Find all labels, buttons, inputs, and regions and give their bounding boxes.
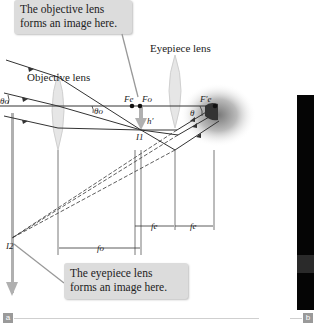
label-f-e-2: fe bbox=[190, 221, 197, 231]
label-fe-prime: F′e bbox=[199, 94, 211, 104]
panel-b-stripe bbox=[297, 255, 314, 273]
objective-lens-shape bbox=[52, 73, 64, 150]
panel-b-image bbox=[297, 95, 314, 310]
label-fe: Fe bbox=[123, 94, 134, 104]
label-theta-o-left: θo bbox=[0, 96, 9, 106]
label-objective-lens: Objective lens bbox=[27, 71, 90, 83]
label-i2: I2 bbox=[5, 241, 14, 251]
label-h-prime: h′ bbox=[147, 116, 155, 126]
panel-a-rule bbox=[14, 318, 259, 319]
object-arrow bbox=[11, 113, 14, 293]
label-i1: I1 bbox=[135, 132, 144, 142]
panel-label-a: a bbox=[3, 313, 13, 323]
panel-label-b: b bbox=[303, 313, 313, 323]
label-f-o: fo bbox=[97, 243, 105, 253]
label-theta: θ bbox=[190, 108, 195, 118]
label-theta-o: θo bbox=[94, 106, 103, 116]
callout-eyepiece-image: The eyepiece lens forms an image here. bbox=[64, 263, 188, 299]
callout-eyepiece-text: The eyepiece lens forms an image here. bbox=[70, 267, 167, 293]
focal-point-fe-prime bbox=[213, 104, 218, 109]
eyepiece-lens-shape bbox=[169, 55, 181, 128]
label-eyepiece-lens: Eyepiece lens bbox=[150, 42, 211, 54]
callout-pointer-bottom bbox=[14, 244, 64, 283]
focal-point-fo bbox=[138, 104, 143, 109]
focal-point-fe bbox=[130, 104, 135, 109]
callout-pointer-top bbox=[122, 34, 138, 97]
label-f-e-1: fe bbox=[151, 221, 158, 231]
label-fo: Fo bbox=[141, 94, 152, 104]
panel-b-rule bbox=[290, 318, 302, 319]
